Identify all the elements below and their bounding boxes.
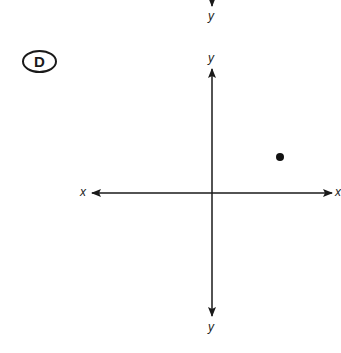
- plotted-point: [276, 153, 284, 161]
- answer-option-d[interactable]: D: [22, 50, 57, 73]
- option-letter: D: [34, 53, 45, 70]
- x-axis-left-label: x: [80, 186, 86, 198]
- y-axis-bottom-label: y: [208, 321, 214, 333]
- x-axis-right-label: x: [335, 186, 341, 198]
- previous-figure-y-label: y: [208, 10, 214, 22]
- y-axis-top-label: y: [208, 52, 214, 64]
